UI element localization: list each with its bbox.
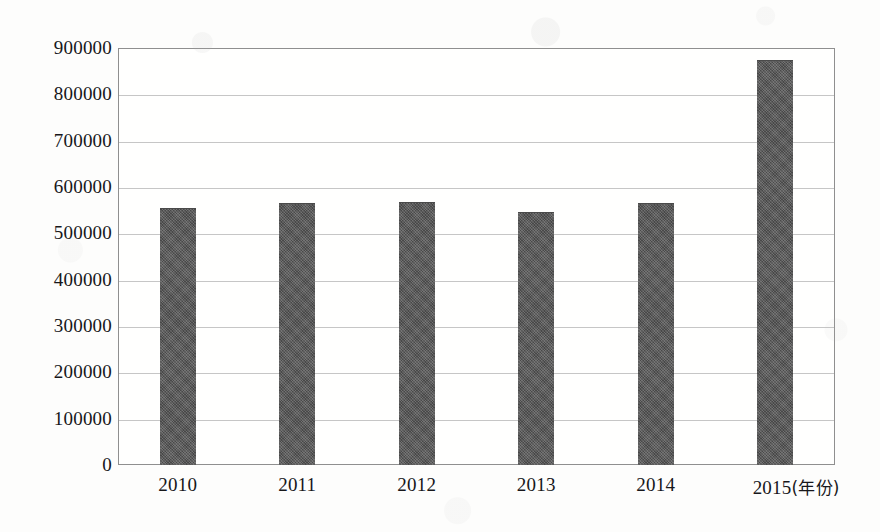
y-axis-tick-label: 900000 [4, 37, 112, 59]
bar-chart-figure: 9000008000007000006000005000004000003000… [0, 0, 880, 532]
y-axis-tick-label: 0 [4, 454, 112, 476]
x-axis-tick-text: 2015 [753, 477, 792, 498]
y-axis-tick-label: 300000 [4, 315, 112, 337]
x-axis-tick-label: 2014 [636, 474, 675, 496]
x-axis-tick-label: 2012 [397, 474, 436, 496]
bar-2012 [399, 202, 435, 465]
x-axis-tick-label: 2010 [158, 474, 197, 496]
x-axis-tick-text: 2014 [636, 474, 675, 495]
y-axis-tick-label: 500000 [4, 222, 112, 244]
x-axis-tick-label: 2013 [517, 474, 556, 496]
x-axis: 201020112012201320142015(年份) [118, 474, 880, 514]
bar-2010 [160, 208, 196, 465]
bar-2013 [518, 212, 554, 465]
y-axis: 9000008000007000006000005000004000003000… [0, 0, 112, 532]
x-axis-tick-text: 2013 [517, 474, 556, 495]
bar-2015 [757, 60, 793, 465]
x-axis-tick-label: 2011 [278, 474, 316, 496]
bar-2014 [638, 203, 674, 465]
y-axis-tick-label: 400000 [4, 269, 112, 291]
y-axis-tick-label: 200000 [4, 361, 112, 383]
y-axis-tick-label: 700000 [4, 130, 112, 152]
x-axis-tick-text: 2010 [158, 474, 197, 495]
x-axis-tick-text: 2011 [278, 474, 316, 495]
y-axis-tick-label: 800000 [4, 83, 112, 105]
x-axis-tick-text: 2012 [397, 474, 436, 495]
y-axis-tick-label: 600000 [4, 176, 112, 198]
y-axis-tick-label: 100000 [4, 408, 112, 430]
bar-series [118, 48, 835, 465]
x-axis-tick-label: 2015(年份) [753, 474, 840, 499]
x-axis-unit-label: (年份) [791, 478, 839, 498]
bar-2011 [279, 203, 315, 465]
